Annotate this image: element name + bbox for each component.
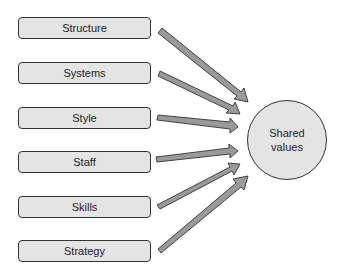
arrow-structure-icon (158, 28, 248, 102)
box-label: Skills (72, 201, 98, 213)
diagram-canvas: Structure Systems Style Staff Skills Str… (0, 0, 344, 276)
arrow-staff-icon (156, 144, 238, 162)
box-label: Staff (73, 156, 95, 168)
box-label: Structure (62, 22, 107, 34)
box-systems: Systems (18, 62, 151, 84)
box-label: Strategy (64, 245, 105, 257)
arrow-skills-icon (157, 163, 240, 209)
box-structure: Structure (18, 17, 151, 39)
hub-label-line1: Shared (269, 126, 304, 140)
box-staff: Staff (18, 151, 151, 173)
box-skills: Skills (18, 196, 151, 218)
box-style: Style (18, 107, 151, 129)
box-strategy: Strategy (18, 240, 151, 262)
box-label: Style (72, 112, 96, 124)
arrow-systems-icon (158, 71, 240, 114)
hub-shared-values: Shared values (247, 100, 327, 180)
hub-label-line2: values (271, 140, 303, 154)
box-label: Systems (63, 67, 105, 79)
arrow-style-icon (157, 115, 238, 133)
arrow-strategy-icon (158, 176, 248, 253)
